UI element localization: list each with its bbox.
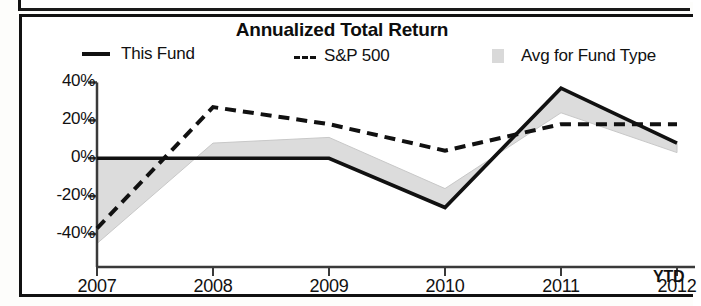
series-avg-for-fund-type-area [97, 88, 677, 243]
x-axis-tick-label: 2010 [410, 276, 480, 297]
x-axis-tick-label: 2011 [526, 276, 596, 297]
y-axis-tick-label: 40% [33, 71, 95, 91]
y-axis-tick-label: 20% [33, 109, 95, 129]
x-axis-tick-label: 2007 [62, 276, 132, 297]
adjacent-panel-edge [18, 0, 690, 11]
x-axis-tick-label: 2008 [178, 276, 248, 297]
plot-svg [22, 17, 696, 300]
adjacent-panel-fill [21, 0, 693, 2]
y-axis-tick-label: 0% [33, 147, 95, 167]
x-axis-ytd-note: YTD [653, 268, 695, 286]
plot-area [22, 17, 696, 300]
y-axis-labels: 40%20%0%-20%-40% [27, 17, 95, 300]
chart-panel: Annualized Total Return This Fund S&P 50… [19, 14, 693, 297]
y-axis-tick-label: -40% [33, 223, 95, 243]
x-axis-labels: 200720082009201020112012 [22, 264, 696, 300]
x-axis-tick-label: 2009 [294, 276, 364, 297]
y-axis-tick-label: -20% [33, 185, 95, 205]
